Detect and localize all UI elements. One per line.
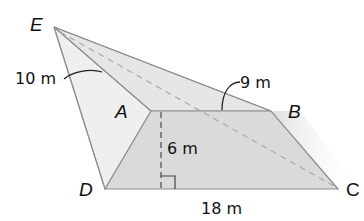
vertex-label-a: A	[114, 101, 128, 122]
measure-dc: 18 m	[201, 199, 242, 218]
measure-height: 6 m	[167, 139, 198, 158]
pyramid-diagram: E A B D C 10 m 9 m 6 m 18 m	[0, 0, 364, 221]
measure-ea: 10 m	[15, 69, 56, 88]
vertex-label-e: E	[30, 14, 43, 35]
vertex-label-c: C	[346, 179, 360, 200]
vertex-label-b: B	[288, 101, 301, 122]
vertex-label-d: D	[79, 179, 93, 200]
measure-eb: 9 m	[240, 73, 271, 92]
